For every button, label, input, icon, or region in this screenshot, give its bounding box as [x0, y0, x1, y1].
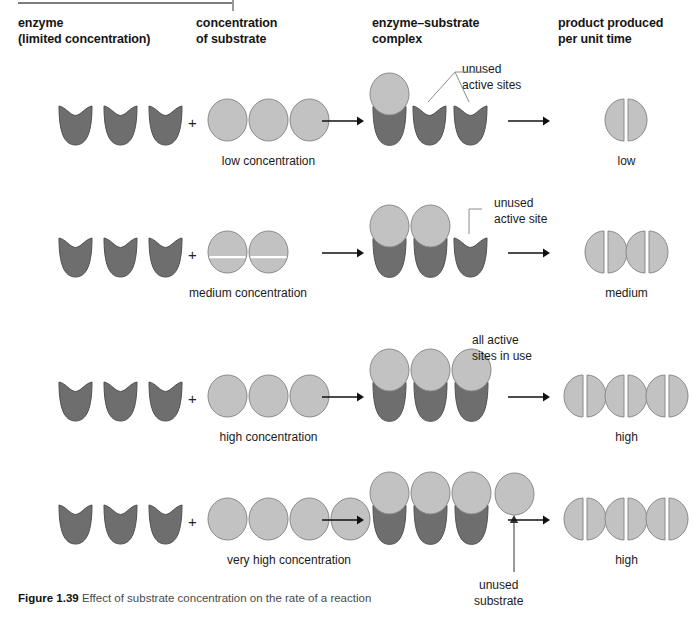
figure-number: Figure 1.39: [18, 592, 79, 604]
product-molecule: [565, 497, 605, 541]
figure-caption-text: Effect of substrate concentration on the…: [82, 592, 371, 604]
product-molecule: [606, 497, 646, 541]
reaction-arrow: [508, 513, 552, 527]
figure-caption: Figure 1.39 Effect of substrate concentr…: [18, 592, 371, 604]
product-molecule: [647, 497, 687, 541]
product-rate-label: high: [535, 553, 693, 568]
